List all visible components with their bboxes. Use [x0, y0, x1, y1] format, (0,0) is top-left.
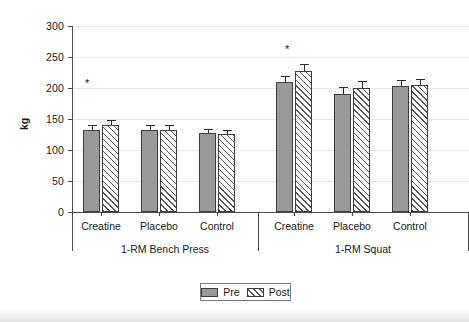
bar-bp-creatine-post: [102, 125, 119, 212]
y-tick-label-200: 200: [24, 82, 64, 94]
significance-star-squat-creatine: *: [285, 44, 289, 55]
bar-sq-control-post: [411, 85, 428, 212]
group-separator-left: [72, 212, 73, 251]
group-separator-middle: [258, 212, 259, 251]
legend-label-pre: Pre: [223, 287, 239, 298]
x-tick-bp-control: [217, 212, 218, 216]
x-tick-sq-control: [410, 212, 411, 216]
error-cap-bp-creatine-post: [107, 120, 116, 121]
gridline-100: [72, 150, 469, 151]
bar-bp-placebo-post: [160, 130, 177, 212]
gridline-150: [72, 119, 469, 120]
error-cap-bp-placebo-pre: [146, 125, 155, 126]
y-tick-300: [68, 26, 72, 27]
y-tick-200: [68, 88, 72, 89]
y-tick-50: [68, 181, 72, 182]
x-tick-label-bp-control: Control: [177, 220, 257, 232]
error-cap-bp-placebo-post: [165, 125, 174, 126]
bar-sq-creatine-pre: [276, 82, 293, 212]
y-axis-line: [72, 26, 73, 213]
legend-label-post: Post: [269, 287, 290, 298]
y-tick-250: [68, 57, 72, 58]
legend-entry-pre: Pre: [201, 287, 239, 298]
x-tick-bp-placebo: [159, 212, 160, 216]
error-bar-sq-placebo-post: [362, 81, 363, 88]
legend-entry-post: Post: [247, 287, 290, 298]
gridline-250: [72, 57, 469, 58]
error-cap-bp-control-post: [223, 130, 232, 131]
y-tick-label-300: 300: [24, 20, 64, 32]
legend: Pre Post: [200, 283, 291, 301]
y-tick-150: [68, 119, 72, 120]
error-cap-sq-control-post: [416, 79, 425, 80]
y-tick-label-50: 50: [24, 175, 64, 187]
x-tick-sq-creatine: [294, 212, 295, 216]
gridline-300: [72, 26, 469, 27]
significance-star-bench-creatine: *: [85, 78, 89, 89]
error-cap-sq-placebo-pre: [339, 87, 348, 88]
error-cap-sq-control-pre: [397, 80, 406, 81]
y-tick-label-0: 0: [24, 206, 64, 218]
bar-bp-control-pre: [199, 133, 216, 212]
bar-bp-control-post: [218, 134, 235, 212]
y-tick-label-150: 150: [24, 113, 64, 125]
y-axis-title: kg: [18, 118, 30, 130]
bar-bp-placebo-pre: [141, 130, 158, 212]
error-cap-sq-creatine-pre: [281, 76, 290, 77]
y-tick-label-100: 100: [24, 144, 64, 156]
x-tick-bp-creatine: [101, 212, 102, 216]
gridline-200: [72, 88, 469, 89]
page-edge-shadow: [0, 310, 469, 322]
bar-sq-creatine-post: [295, 71, 312, 212]
error-bar-sq-placebo-pre: [343, 87, 344, 94]
group-label-squat: 1-RM Squat: [293, 243, 433, 255]
pre-swatch-icon: [201, 288, 218, 297]
bar-sq-control-pre: [392, 86, 409, 212]
bar-sq-placebo-post: [353, 88, 370, 212]
x-tick-label-sq-control: Control: [370, 220, 450, 232]
post-swatch-icon: [247, 288, 264, 297]
y-tick-label-250: 250: [24, 51, 64, 63]
error-cap-bp-creatine-pre: [88, 125, 97, 126]
error-cap-sq-creatine-post: [300, 64, 309, 65]
y-tick-100: [68, 150, 72, 151]
x-tick-sq-placebo: [352, 212, 353, 216]
bar-sq-placebo-pre: [334, 94, 351, 212]
gridline-50: [72, 181, 469, 182]
error-cap-sq-placebo-post: [358, 81, 367, 82]
bar-bp-creatine-pre: [83, 130, 100, 212]
bar-chart-figure: 300 250 200 150 100 50 0 kg Creatine Pla…: [0, 0, 469, 322]
error-cap-bp-control-pre: [204, 129, 213, 130]
group-label-bench-press: 1-RM Bench Press: [95, 243, 235, 255]
